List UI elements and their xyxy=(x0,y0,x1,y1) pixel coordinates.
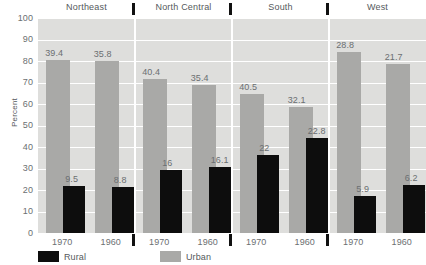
y-tick-label: 10 xyxy=(0,207,33,216)
x-tick-label: 1970 xyxy=(236,237,276,247)
bar-value-label-rural: 22 xyxy=(259,144,269,153)
y-tick-label: 70 xyxy=(0,78,33,87)
bar-rural xyxy=(209,167,231,233)
bar-rural xyxy=(257,155,279,233)
separator-tick-top xyxy=(132,3,135,15)
panel-separator xyxy=(328,18,330,233)
separator-tick-bottom xyxy=(229,234,232,246)
bar-value-label-urban: 40.4 xyxy=(142,68,160,77)
panel-separator xyxy=(134,18,136,233)
separator-tick-top xyxy=(229,3,232,15)
y-tick-label: 50 xyxy=(0,121,33,130)
separator-tick-bottom xyxy=(132,234,135,246)
y-tick-label: 90 xyxy=(0,35,33,44)
bar-value-label-rural: 16 xyxy=(162,159,172,168)
y-tick-label: 30 xyxy=(0,164,33,173)
legend-label-urban: Urban xyxy=(186,252,211,262)
legend-swatch-rural xyxy=(38,251,59,262)
legend-label-rural: Rural xyxy=(64,252,86,262)
x-tick-label: 1960 xyxy=(91,237,131,247)
bar-value-label-urban: 28.8 xyxy=(336,41,354,50)
y-axis-title: Percent xyxy=(10,83,19,143)
y-tick-label: 20 xyxy=(0,186,33,195)
x-tick-label: 1970 xyxy=(333,237,373,247)
panel-title-south: South xyxy=(232,2,329,12)
x-tick-label: 1970 xyxy=(139,237,179,247)
y-tick-label: 40 xyxy=(0,143,33,152)
bar-rural xyxy=(160,170,182,233)
legend-swatch-urban xyxy=(160,251,181,262)
bar-rural xyxy=(306,138,328,233)
panel-separator xyxy=(231,18,233,233)
x-tick-label: 1970 xyxy=(42,237,82,247)
bar-value-label-urban: 35.8 xyxy=(94,50,112,59)
grouped-bar-chart: Percent 1009080706050403020100 39.49.535… xyxy=(0,0,426,265)
bar-value-label-rural: 16.1 xyxy=(211,156,229,165)
bar-rural xyxy=(403,185,425,233)
bar-value-label-urban: 35.4 xyxy=(191,74,209,83)
separator-tick-bottom xyxy=(326,234,329,246)
separator-tick-top xyxy=(326,3,329,15)
bar-value-label-rural: 8.8 xyxy=(114,176,127,185)
bar-value-label-rural: 22.8 xyxy=(308,127,326,136)
y-tick-label: 60 xyxy=(0,100,33,109)
bar-rural xyxy=(112,187,134,233)
bar-value-label-urban: 39.4 xyxy=(45,49,63,58)
bar-value-label-urban: 40.5 xyxy=(239,83,257,92)
bar-value-label-urban: 21.7 xyxy=(385,53,403,62)
bar-value-label-rural: 6.2 xyxy=(405,174,418,183)
y-tick-label: 80 xyxy=(0,57,33,66)
y-tick-label: 0 xyxy=(0,229,33,238)
x-tick-label: 1960 xyxy=(188,237,228,247)
panel-title-northeast: Northeast xyxy=(38,2,135,12)
gridline xyxy=(38,233,426,234)
x-tick-label: 1960 xyxy=(382,237,422,247)
panel-title-west: West xyxy=(329,2,426,12)
x-tick-label: 1960 xyxy=(285,237,325,247)
bar-rural xyxy=(63,186,85,233)
y-tick-label: 100 xyxy=(0,14,33,23)
bar-rural xyxy=(354,196,376,233)
bar-value-label-urban: 32.1 xyxy=(288,96,306,105)
bar-value-label-rural: 9.5 xyxy=(65,175,78,184)
panel-title-north-central: North Central xyxy=(135,2,232,12)
plot-area: 39.49.535.88.840.41635.416.140.52232.122… xyxy=(38,18,426,233)
bar-value-label-rural: 5.9 xyxy=(356,185,369,194)
